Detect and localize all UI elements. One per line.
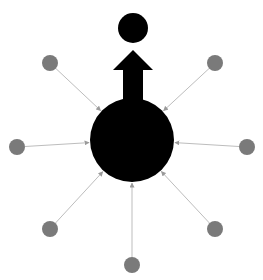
satellite-node-top-right xyxy=(207,55,223,71)
edge-top-left xyxy=(56,68,101,110)
edge-top-right xyxy=(164,68,210,110)
edge-bottom-right xyxy=(161,171,209,223)
target-node xyxy=(118,13,148,43)
satellite-node-top-left xyxy=(42,55,58,71)
satellite-node-right xyxy=(239,139,255,155)
satellite-node-left xyxy=(9,139,25,155)
satellite-node-bottom-right xyxy=(207,221,223,237)
edge-left xyxy=(25,143,89,147)
satellite-node-bottom xyxy=(124,257,140,273)
edge-bottom-left xyxy=(55,172,102,223)
hub-diagram xyxy=(0,0,263,280)
satellite-node-bottom-left xyxy=(42,221,58,237)
edge-right xyxy=(175,143,239,147)
up-arrow-icon xyxy=(113,50,153,100)
hub-node xyxy=(90,98,174,182)
